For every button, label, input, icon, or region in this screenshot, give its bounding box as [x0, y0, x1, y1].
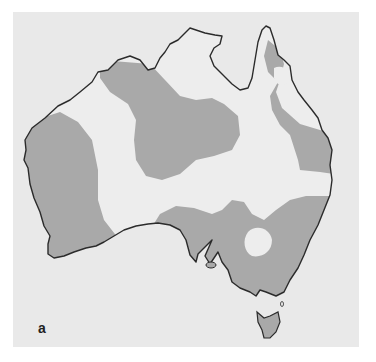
tasmania	[257, 312, 280, 338]
flinders-island	[281, 302, 284, 307]
australia-map	[0, 0, 376, 362]
panel-label: a	[38, 320, 46, 336]
south-eastern-shaded-region	[150, 196, 340, 320]
kangaroo-island	[206, 262, 216, 268]
